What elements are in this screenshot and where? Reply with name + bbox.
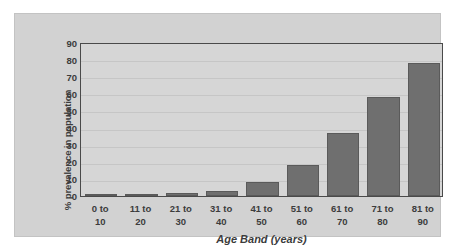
bar-slot xyxy=(202,44,242,196)
bar xyxy=(246,182,278,196)
plot-area xyxy=(80,43,443,197)
x-tick-line-2: 80 xyxy=(362,215,402,228)
x-axis-title: Age Band (years) xyxy=(80,233,443,245)
x-tick-line-2: 40 xyxy=(201,215,241,228)
x-tick-line-1: 31 to xyxy=(210,203,232,214)
bar-slot xyxy=(283,44,323,196)
bar xyxy=(327,133,359,196)
bar xyxy=(166,193,198,196)
y-axis-tick-label: 0 xyxy=(57,191,77,200)
y-axis-tick-label: 50 xyxy=(57,106,77,115)
y-axis-tick-label: 20 xyxy=(57,157,77,166)
bar-series xyxy=(81,44,442,196)
x-tick-line-1: 71 to xyxy=(371,203,393,214)
x-tick-line-2: 90 xyxy=(403,215,443,228)
x-axis-tick-label: 71 to80 xyxy=(362,202,402,228)
x-tick-line-2: 60 xyxy=(282,215,322,228)
bar-slot xyxy=(162,44,202,196)
x-tick-line-1: 81 to xyxy=(412,203,434,214)
x-tick-line-1: 11 to xyxy=(130,203,152,214)
bar-slot xyxy=(81,44,121,196)
x-axis-tick-label: 61 to70 xyxy=(322,202,362,228)
x-axis-tick-label: 51 to60 xyxy=(282,202,322,228)
bar xyxy=(85,194,117,196)
x-axis-tick-labels: 0 to1011 to2021 to3031 to4041 to5051 to6… xyxy=(80,202,443,232)
chart-screenshot: % prevalence in population 0102030405060… xyxy=(0,0,455,249)
x-tick-line-2: 10 xyxy=(80,215,120,228)
bar-slot xyxy=(323,44,363,196)
y-axis-tick-label: 80 xyxy=(57,55,77,64)
x-tick-line-2: 30 xyxy=(161,215,201,228)
x-axis-tick-label: 41 to50 xyxy=(241,202,281,228)
bar xyxy=(125,194,157,196)
x-axis-tick-label: 81 to90 xyxy=(403,202,443,228)
y-axis-tick-label: 60 xyxy=(57,89,77,98)
bar xyxy=(287,165,319,196)
x-tick-line-2: 20 xyxy=(120,215,160,228)
bar-slot xyxy=(121,44,161,196)
y-axis-tick-label: 40 xyxy=(57,123,77,132)
y-axis-tick-label: 10 xyxy=(57,174,77,183)
x-tick-line-1: 21 to xyxy=(170,203,192,214)
chart-panel: % prevalence in population 0102030405060… xyxy=(14,13,441,237)
x-tick-line-1: 61 to xyxy=(331,203,353,214)
bar-slot xyxy=(242,44,282,196)
bar xyxy=(367,97,399,196)
bar-slot xyxy=(404,44,444,196)
bar xyxy=(408,63,440,196)
x-tick-line-2: 70 xyxy=(322,215,362,228)
y-axis-tick-label: 70 xyxy=(57,72,77,81)
y-axis-tick-labels: 0102030405060708090 xyxy=(57,40,77,198)
x-tick-line-1: 51 to xyxy=(291,203,313,214)
y-axis-tick-label: 30 xyxy=(57,140,77,149)
x-axis-tick-label: 11 to20 xyxy=(120,202,160,228)
x-tick-line-2: 50 xyxy=(241,215,281,228)
x-axis-tick-label: 31 to40 xyxy=(201,202,241,228)
bar xyxy=(206,191,238,196)
y-axis-tick-label: 90 xyxy=(57,38,77,47)
x-tick-line-1: 41 to xyxy=(250,203,272,214)
x-axis-tick-label: 0 to10 xyxy=(80,202,120,228)
x-axis-tick-label: 21 to30 xyxy=(161,202,201,228)
x-tick-line-1: 0 to xyxy=(92,203,109,214)
bar-slot xyxy=(363,44,403,196)
